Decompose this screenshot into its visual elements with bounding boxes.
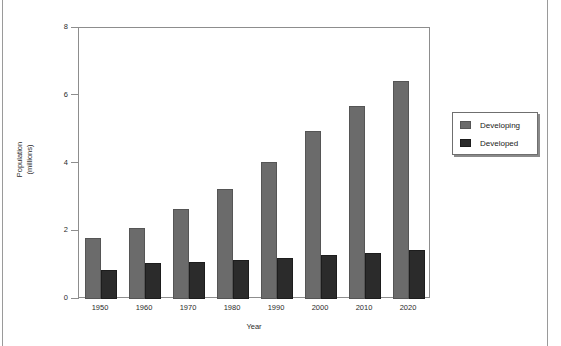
bar-developed-1950 (101, 270, 117, 299)
bar-developed-2000 (321, 255, 337, 299)
x-axis-tick-label-1950: 1950 (78, 303, 122, 312)
bar-chart-figure: Population (millions) 02468 195019601970… (0, 0, 561, 346)
x-axis-tick-label-1980: 1980 (210, 303, 254, 312)
bar-developing-2020 (393, 81, 409, 299)
bar-developing-1970 (173, 209, 189, 299)
bar-developed-1970 (189, 262, 205, 299)
bar-developed-1980 (233, 260, 249, 299)
bar-developing-1980 (217, 189, 233, 299)
legend-label-developing: Developing (480, 121, 520, 130)
legend-item-developed[interactable]: Developed (460, 137, 518, 149)
x-axis-tick-label-1960: 1960 (122, 303, 166, 312)
bar-developing-1950 (85, 238, 101, 299)
bar-developed-2010 (365, 253, 381, 299)
bar-developed-1990 (277, 258, 293, 299)
x-axis-tick-label-1970: 1970 (166, 303, 210, 312)
y-axis-tick-label: 4 (46, 159, 68, 167)
x-axis-tick-label-2020: 2020 (386, 303, 430, 312)
chart-legend: Developing Developed (452, 112, 538, 155)
y-axis-tick-label: 6 (46, 91, 68, 99)
y-axis-title-line1: Population (15, 142, 24, 177)
x-axis-tick-label-2000: 2000 (298, 303, 342, 312)
legend-swatch-developed-icon (460, 139, 471, 147)
bar-developing-1960 (129, 228, 145, 299)
y-axis-title: Population (millions) (15, 112, 34, 208)
bar-developing-2010 (349, 106, 365, 299)
y-axis-tick-label: 2 (46, 226, 68, 234)
legend-item-developing[interactable]: Developing (460, 119, 520, 131)
x-axis-tick-label-2010: 2010 (342, 303, 386, 312)
bar-developing-2000 (305, 131, 321, 299)
y-axis-tick-label: 8 (46, 23, 68, 31)
x-axis-title: Year (78, 322, 430, 331)
plot-area (78, 27, 430, 298)
y-axis-title-line2: (millions) (24, 145, 33, 175)
y-axis-tick-label: 0 (46, 294, 68, 302)
bar-developing-1990 (261, 162, 277, 299)
bar-developed-2020 (409, 250, 425, 299)
x-axis-tick-label-1990: 1990 (254, 303, 298, 312)
legend-label-developed: Developed (480, 139, 518, 148)
bar-developed-1960 (145, 263, 161, 299)
legend-swatch-developing-icon (460, 121, 471, 129)
